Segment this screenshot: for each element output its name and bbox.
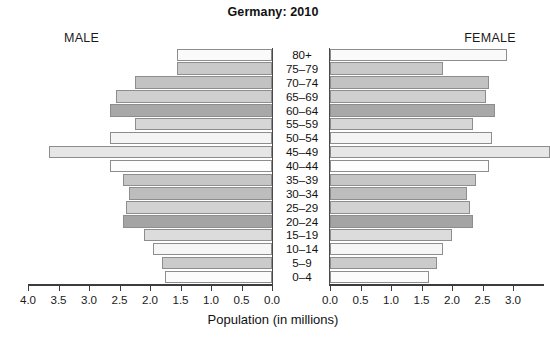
- age-group-label: 80+: [273, 48, 331, 62]
- female-axis-tick: [513, 285, 514, 291]
- female-bar: [330, 243, 443, 255]
- male-bar: [162, 257, 272, 269]
- male-bar: [177, 62, 272, 74]
- age-group-label: 50–54: [273, 131, 331, 145]
- male-bar: [123, 215, 272, 227]
- male-axis-tick: [59, 285, 60, 291]
- female-bar: [330, 215, 473, 227]
- male-bar: [110, 132, 272, 144]
- age-group-label: 30–34: [273, 187, 331, 201]
- age-group-label: 55–59: [273, 117, 331, 131]
- age-group-label: 10–14: [273, 242, 331, 256]
- male-bar: [135, 118, 272, 130]
- age-group-label: 25–29: [273, 201, 331, 215]
- female-bar: [330, 201, 470, 213]
- male-bar: [110, 104, 272, 116]
- female-bar: [330, 257, 437, 269]
- age-group-label: 40–44: [273, 159, 331, 173]
- female-bar: [330, 174, 476, 186]
- male-axis-tick: [242, 285, 243, 291]
- male-bar: [129, 187, 272, 199]
- female-bar: [330, 62, 443, 74]
- male-bar: [123, 174, 272, 186]
- female-bar: [330, 104, 495, 116]
- age-group-label: 35–39: [273, 173, 331, 187]
- age-group-label: 20–24: [273, 215, 331, 229]
- age-group-label: 0–4: [273, 270, 331, 284]
- female-bar: [330, 132, 492, 144]
- age-group-label: 60–64: [273, 104, 331, 118]
- male-axis-tick-label: 0.0: [252, 293, 292, 306]
- age-group-label: 65–69: [273, 90, 331, 104]
- female-bar: [330, 187, 467, 199]
- female-axis-tick-label: 3.0: [493, 293, 533, 306]
- male-axis-tick: [150, 285, 151, 291]
- age-group-label: 5–9: [273, 256, 331, 270]
- female-bar: [330, 118, 473, 130]
- male-bar: [126, 201, 272, 213]
- male-axis-tick: [181, 285, 182, 291]
- x-axis-title: Population (in millions): [0, 312, 546, 327]
- male-axis-tick: [211, 285, 212, 291]
- male-axis-tick: [28, 285, 29, 291]
- male-side-label: MALE: [64, 31, 99, 45]
- female-side-label: FEMALE: [464, 31, 516, 45]
- male-bar: [144, 229, 272, 241]
- male-bar: [177, 49, 272, 61]
- age-group-axis: 80+75–7970–7465–6960–6455–5950–5445–4940…: [272, 48, 330, 284]
- male-axis-tick: [89, 285, 90, 291]
- female-bar: [330, 49, 507, 61]
- female-axis-tick: [330, 285, 331, 291]
- age-group-label: 70–74: [273, 76, 331, 90]
- chart-title: Germany: 2010: [0, 5, 546, 19]
- male-bar: [49, 146, 272, 158]
- female-bar: [330, 160, 489, 172]
- female-bar: [330, 76, 489, 88]
- age-group-label: 75–79: [273, 62, 331, 76]
- female-bar: [330, 229, 452, 241]
- male-bar: [153, 243, 272, 255]
- female-axis-tick: [361, 285, 362, 291]
- male-bar: [165, 271, 272, 283]
- female-axis-tick: [452, 285, 453, 291]
- age-group-label: 45–49: [273, 145, 331, 159]
- female-bar: [330, 90, 486, 102]
- male-axis-tick: [120, 285, 121, 291]
- male-bar: [116, 90, 272, 102]
- female-axis-tick: [483, 285, 484, 291]
- female-axis-tick: [391, 285, 392, 291]
- age-group-label: 15–19: [273, 228, 331, 242]
- female-bar: [330, 271, 429, 283]
- male-bar: [110, 160, 272, 172]
- male-bar: [135, 76, 272, 88]
- male-axis-tick: [272, 285, 273, 291]
- female-axis-tick: [422, 285, 423, 291]
- female-bar: [330, 146, 550, 158]
